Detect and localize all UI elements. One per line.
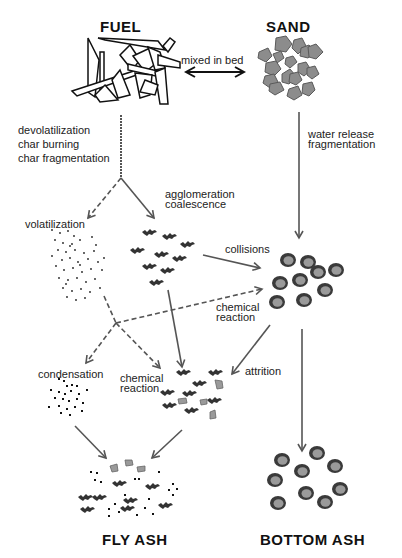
label-char-burning: char burning (18, 139, 79, 150)
fuel-fragments-icon (72, 38, 180, 104)
diagram-canvas (0, 0, 402, 558)
label-attrition: attrition (245, 366, 281, 377)
label-collisions: collisions (225, 244, 270, 255)
label-volatilization: volatilization (25, 219, 85, 230)
label-coalescence: coalescence (165, 199, 226, 209)
label-char-fragmentation: char fragmentation (18, 153, 110, 164)
title-fly-ash: FLY ASH (102, 531, 167, 548)
title-fuel: FUEL (100, 18, 141, 35)
label-fragmentation: fragmentation (308, 139, 375, 149)
fly-ash-icon (78, 460, 178, 517)
label-devolatilization: devolatilization (18, 125, 90, 136)
sand-grains-icon (258, 36, 323, 100)
condensed-dots-icon (48, 378, 88, 416)
label-condensation: condensation (38, 369, 103, 380)
title-sand: SAND (266, 18, 311, 35)
volatile-dots-icon (51, 229, 105, 301)
title-bottom-ash: BOTTOM ASH (260, 531, 365, 548)
label-chemical-reaction-top-2: reaction (216, 312, 255, 322)
coated-sand-icon (269, 253, 344, 309)
bottom-ash-icon (267, 446, 348, 510)
mixed-ash-icon (160, 369, 223, 419)
label-mixed-in-bed: mixed in bed (181, 55, 243, 66)
label-chemical-reaction-bottom-2: reaction (120, 383, 159, 393)
agglomerates-icon (130, 229, 195, 286)
